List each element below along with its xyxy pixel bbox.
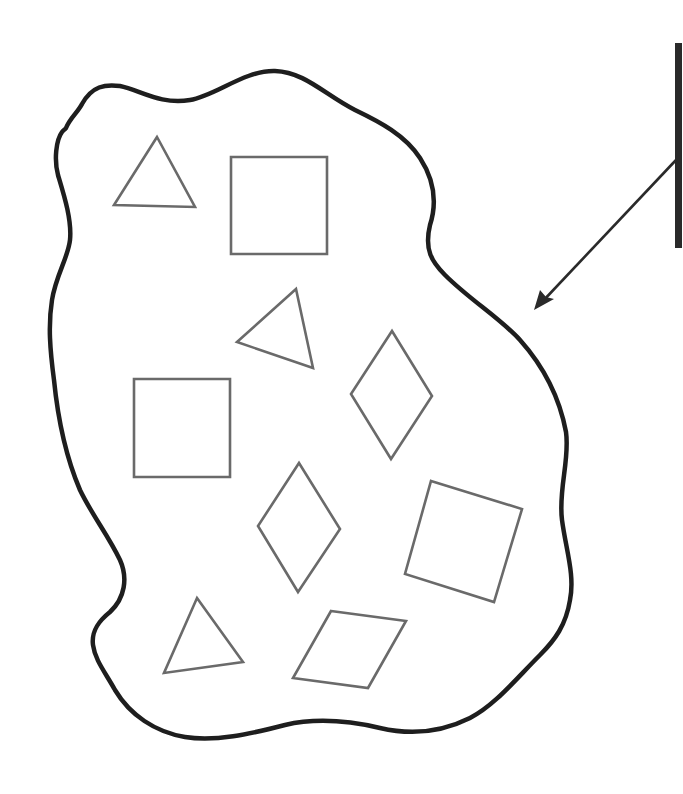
population-boundary [50,71,572,739]
square-shape [231,157,327,254]
parallelogram-shape [293,611,406,688]
square-shape [134,379,230,477]
triangle-shape [114,137,195,207]
square-shape [405,481,522,602]
diamond-shape [258,463,340,592]
diamond-shape [351,331,432,459]
shapes-group [114,137,522,688]
triangle-shape [164,598,243,673]
arrow-line [542,160,676,302]
triangle-shape [237,289,313,368]
diagram-canvas [0,0,683,794]
label-bar [675,43,682,248]
